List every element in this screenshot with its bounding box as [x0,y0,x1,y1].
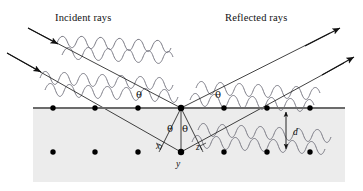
theta-triangle-right-label: θ [182,124,188,134]
figure-canvas: Incident rays Reflected rays θ θ θ θ x y… [0,0,363,191]
incident-ray-upper-arrow [28,28,58,44]
crystal-region [33,108,345,182]
spacing-d-label: d [293,128,298,138]
atom [135,105,140,110]
theta-triangle-left-label: θ [167,124,173,134]
atom [178,105,184,111]
bragg-diffraction-diagram [0,0,363,191]
theta-surface-left-label: θ [136,90,142,100]
atom [307,149,312,154]
atom [264,105,269,110]
incident-ray-lower-arrow [7,53,41,72]
atom [307,105,312,110]
atom [178,149,184,155]
wave-incident-upper [57,36,173,63]
wave-incident-lower [40,71,178,102]
reflected-rays-label: Reflected rays [225,13,287,24]
incident-rays-label: Incident rays [55,13,111,24]
theta-surface-right-label: θ [215,90,221,100]
reflected-ray-upper-arrow [305,28,340,46]
segment-y-label: y [176,160,180,170]
atom [50,105,55,110]
atom [221,149,226,154]
atom [50,149,55,154]
atom [135,149,140,154]
reflected-ray-lower-arrow [322,57,354,75]
atom [264,149,269,154]
segment-z-label: z [196,143,200,153]
atom [92,105,97,110]
atom [92,149,97,154]
segment-x-label: x [156,142,160,152]
atom [221,105,226,110]
